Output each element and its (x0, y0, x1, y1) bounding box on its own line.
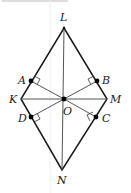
label-K: K (8, 93, 18, 106)
rhombus-diagram: L M N K O A B C D (0, 0, 131, 193)
label-O: O (63, 105, 72, 118)
label-M: M (109, 93, 122, 106)
vertex-L-dot (63, 27, 65, 29)
label-B: B (101, 74, 110, 87)
segment-OD (31, 99, 64, 117)
point-C (94, 115, 99, 120)
point-B (95, 79, 100, 84)
right-angle-mark-C (87, 112, 93, 121)
label-N: N (56, 174, 67, 187)
label-D: D (17, 112, 27, 125)
segment-OA (31, 81, 64, 99)
segment-OB (64, 81, 97, 99)
label-L: L (59, 11, 67, 24)
point-A (29, 79, 34, 84)
point-D (29, 115, 34, 120)
label-A: A (17, 74, 26, 87)
cropped-text-artifact (2, 0, 68, 2)
point-O (62, 97, 67, 102)
label-C: C (102, 112, 111, 125)
